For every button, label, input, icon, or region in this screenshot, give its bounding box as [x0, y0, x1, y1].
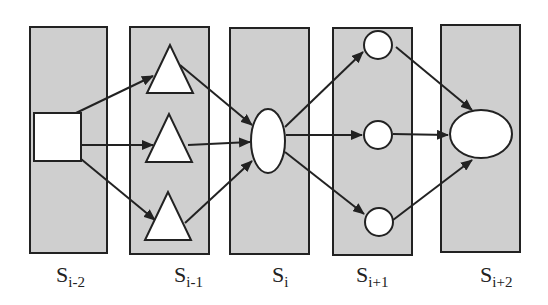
- label-s-i-plus-2: Si+2: [480, 262, 512, 291]
- label-subscript: i-2: [68, 274, 85, 290]
- label-base: S: [174, 262, 186, 287]
- label-subscript: i-1: [186, 274, 203, 290]
- label-base: S: [480, 262, 492, 287]
- label-s-i-plus-1: Si+1: [356, 262, 388, 291]
- label-base: S: [356, 262, 368, 287]
- label-s-i-minus-2: Si-2: [56, 262, 85, 291]
- node-circle-middle: [364, 121, 392, 149]
- edge-circ-mid-to-ellipse: [393, 134, 448, 135]
- node-ellipse-s-i-plus-2: [450, 110, 512, 158]
- node-circle-bottom: [365, 208, 393, 236]
- label-s-i-minus-1: Si-1: [174, 262, 203, 291]
- label-subscript: i+2: [492, 274, 512, 290]
- node-ellipse-s-i: [251, 109, 285, 173]
- label-subscript: i+1: [368, 274, 388, 290]
- label-base: S: [56, 262, 68, 287]
- node-circle-top: [364, 31, 392, 59]
- state-graph-diagram: [0, 0, 548, 305]
- label-base: S: [272, 262, 284, 287]
- label-s-i: Si: [272, 262, 288, 291]
- node-square: [34, 113, 81, 161]
- label-subscript: i: [284, 274, 288, 290]
